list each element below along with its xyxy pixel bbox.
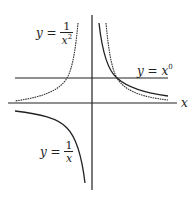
label-inv-x-fraction: 1 x [64, 140, 73, 164]
label-inv-x2: y = 1 x2 [36, 21, 73, 46]
label-inv-x-numerator: 1 [64, 140, 73, 151]
label-inv-x2-lhs: y = [36, 26, 57, 40]
function-graph [0, 0, 193, 198]
x-axis-label: x [181, 97, 188, 109]
label-inv-x: y = 1 x [40, 140, 73, 164]
label-inv-x2-denominator: x2 [60, 32, 73, 46]
label-x0: y = x0 [137, 64, 173, 77]
label-inv-x-lhs: y = [40, 145, 61, 159]
label-inv-x2-fraction: 1 x2 [60, 21, 73, 46]
curve-inv-x-right [99, 23, 168, 96]
label-x0-exp: 0 [168, 63, 172, 71]
label-inv-x2-numerator: 1 [60, 21, 73, 32]
label-inv-x2-den-exp: 2 [68, 33, 72, 41]
label-inv-x-denominator: x [64, 151, 73, 164]
label-x0-lhs: y = [137, 64, 158, 78]
